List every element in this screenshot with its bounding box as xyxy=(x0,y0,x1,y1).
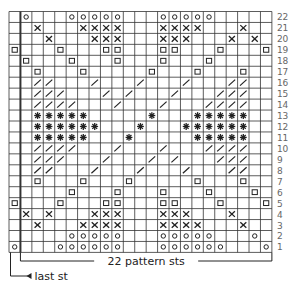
circle-icon xyxy=(24,15,28,19)
slash-icon xyxy=(137,80,144,86)
square-icon xyxy=(58,201,63,206)
circle-icon xyxy=(81,234,85,238)
cross-icon xyxy=(172,36,178,42)
asterisk-icon xyxy=(68,123,75,130)
asterisk-icon xyxy=(46,134,53,141)
square-icon xyxy=(69,58,74,63)
slash-icon xyxy=(46,167,53,173)
circle-icon xyxy=(264,245,268,249)
square-icon xyxy=(218,47,223,52)
cross-icon xyxy=(183,25,189,31)
slash-icon xyxy=(149,156,156,162)
square-icon xyxy=(172,201,177,206)
cross-icon xyxy=(160,211,166,217)
slash-icon xyxy=(34,91,41,97)
asterisk-icon xyxy=(57,134,64,141)
cross-icon xyxy=(103,25,109,31)
circle-icon xyxy=(195,15,199,19)
slash-icon xyxy=(217,156,224,162)
circle-icon xyxy=(81,245,85,249)
row-number: 2 xyxy=(277,231,283,241)
cross-icon xyxy=(35,222,41,228)
slash-icon xyxy=(46,80,53,86)
knitting-chart: 22212019181716151413121110987654321 22 p… xyxy=(0,0,297,282)
cross-icon xyxy=(229,36,235,42)
row-number: 7 xyxy=(277,177,283,187)
slash-icon xyxy=(240,80,247,86)
cross-icon xyxy=(46,211,52,217)
asterisk-icon xyxy=(148,112,155,119)
asterisk-icon xyxy=(126,134,133,141)
cross-icon xyxy=(23,211,29,217)
asterisk-icon xyxy=(46,112,53,119)
cross-icon xyxy=(195,222,201,228)
asterisk-icon xyxy=(228,134,235,141)
repeat-brackets: 22 pattern sts last st xyxy=(11,252,272,282)
square-icon xyxy=(58,47,63,52)
circle-icon xyxy=(104,245,108,249)
cross-icon xyxy=(103,211,109,217)
asterisk-icon xyxy=(137,123,144,130)
row-number: 6 xyxy=(277,188,283,198)
cross-icon xyxy=(35,25,41,31)
slash-icon xyxy=(217,91,224,97)
square-icon xyxy=(206,58,211,63)
cross-icon xyxy=(115,36,121,42)
circle-icon xyxy=(173,245,177,249)
asterisk-icon xyxy=(217,134,224,141)
square-icon xyxy=(161,190,166,195)
square-icon xyxy=(252,190,257,195)
arrow-left-icon xyxy=(27,273,32,279)
slash-icon xyxy=(240,156,247,162)
cross-icon xyxy=(80,25,86,31)
slash-icon xyxy=(137,167,144,173)
row-number: 3 xyxy=(277,221,283,231)
circle-icon xyxy=(173,234,177,238)
slash-icon xyxy=(46,156,53,162)
slash-icon xyxy=(57,145,64,151)
slash-icon xyxy=(229,80,236,86)
slash-icon xyxy=(240,91,247,97)
asterisk-icon xyxy=(68,134,75,141)
cross-icon xyxy=(252,36,258,42)
row-number: 17 xyxy=(277,67,288,77)
slash-icon xyxy=(91,80,98,86)
circle-icon xyxy=(161,245,165,249)
square-icon xyxy=(161,47,166,52)
row-number: 13 xyxy=(277,111,288,121)
square-icon xyxy=(69,190,74,195)
square-icon xyxy=(241,179,246,184)
asterisk-icon xyxy=(34,112,41,119)
slash-icon xyxy=(34,156,41,162)
cross-icon xyxy=(80,222,86,228)
cross-icon xyxy=(115,25,121,31)
slash-icon xyxy=(229,167,236,173)
circle-icon xyxy=(115,245,119,249)
cross-icon xyxy=(240,25,246,31)
cross-icon xyxy=(92,222,98,228)
slash-icon xyxy=(217,145,224,151)
circle-icon xyxy=(93,15,97,19)
row-number: 12 xyxy=(277,122,288,132)
square-icon xyxy=(161,201,166,206)
square-icon xyxy=(161,58,166,63)
cross-icon xyxy=(160,25,166,31)
asterisk-icon xyxy=(206,134,213,141)
row-number: 15 xyxy=(277,89,288,99)
asterisk-icon xyxy=(34,123,41,130)
circle-icon xyxy=(70,245,74,249)
square-icon xyxy=(241,69,246,74)
asterisk-icon xyxy=(240,134,247,141)
row-number: 11 xyxy=(277,133,288,143)
circle-icon xyxy=(184,234,188,238)
slash-icon xyxy=(34,167,41,173)
chart-grid xyxy=(9,12,272,253)
slash-icon xyxy=(160,102,167,108)
circle-icon xyxy=(115,234,119,238)
circle-icon xyxy=(81,15,85,19)
slash-icon xyxy=(103,156,110,162)
slash-icon xyxy=(69,102,76,108)
cross-icon xyxy=(229,211,235,217)
cross-icon xyxy=(160,222,166,228)
slash-icon xyxy=(46,91,53,97)
